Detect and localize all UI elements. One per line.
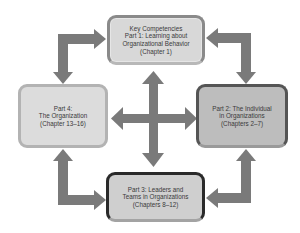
arrow-top-right-icon <box>206 28 256 84</box>
node-label: Part 2: The Individual in Organizations … <box>212 105 271 128</box>
node-part-2-individual: Part 2: The Individual in Organizations … <box>196 84 288 148</box>
node-part-3-leaders-teams: Part 3: Leaders and Teams in Organizatio… <box>106 172 205 222</box>
node-label: Part 4: The Organization (Chapter 13–16) <box>39 105 87 128</box>
node-part-4-organization: Part 4: The Organization (Chapter 13–16) <box>18 84 108 148</box>
four-way-cross-arrow-icon <box>111 71 197 167</box>
node-key-competencies-part-1: Key Competencies Part 1: Learning about … <box>107 15 205 65</box>
arrow-bottom-left-icon <box>53 149 106 210</box>
arrow-bottom-right-icon <box>206 149 256 208</box>
arrow-top-left-icon <box>53 29 106 84</box>
node-label: Part 3: Leaders and Teams in Organizatio… <box>123 186 189 209</box>
node-label: Key Competencies Part 1: Learning about … <box>122 25 189 55</box>
